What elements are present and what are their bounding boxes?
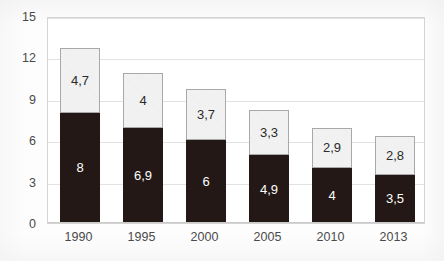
- x-tick-label-2005: 2005: [233, 231, 303, 244]
- bar-value-label-upper: 2,9: [323, 141, 341, 154]
- x-tick-label-1995: 1995: [107, 231, 177, 244]
- bar-chart-figure: 03691215 4,7846,93,763,34,92,942,83,5 19…: [0, 0, 444, 261]
- x-axis-baseline: [48, 222, 424, 223]
- gridline-15: [48, 18, 424, 19]
- bar-group-2010[interactable]: 2,94: [312, 128, 352, 223]
- bar-value-label-lower: 8: [76, 161, 83, 174]
- y-tick-label: 15: [10, 11, 36, 24]
- bar-segment-lower-2005[interactable]: 4,9: [249, 155, 289, 223]
- x-tick-label-2010: 2010: [296, 231, 366, 244]
- bar-group-2000[interactable]: 3,76: [186, 89, 226, 223]
- y-tick-label: 9: [10, 94, 36, 107]
- x-tick-label-1990: 1990: [44, 231, 114, 244]
- y-tick-label: 6: [10, 135, 36, 148]
- x-tick-label-2000: 2000: [170, 231, 240, 244]
- gridline-6: [48, 142, 424, 143]
- bar-segment-lower-2013[interactable]: 3,5: [375, 175, 415, 223]
- gridline-12: [48, 59, 424, 60]
- y-tick-label: 3: [10, 176, 36, 189]
- bar-segment-lower-1995[interactable]: 6,9: [123, 128, 163, 223]
- bar-value-label-upper: 4,7: [71, 74, 89, 87]
- bar-group-2013[interactable]: 2,83,5: [375, 136, 415, 223]
- bar-group-1995[interactable]: 46,9: [123, 73, 163, 223]
- bar-value-label-upper: 3,3: [260, 126, 278, 139]
- bar-value-label-upper: 4: [139, 94, 146, 107]
- bar-segment-lower-1990[interactable]: 8: [60, 113, 100, 223]
- bar-segment-upper-1995[interactable]: 4: [123, 73, 163, 128]
- bar-value-label-lower: 4,9: [260, 183, 278, 196]
- bar-segment-upper-2010[interactable]: 2,9: [312, 128, 352, 168]
- bar-segment-lower-2010[interactable]: 4: [312, 168, 352, 223]
- bar-segment-upper-2005[interactable]: 3,3: [249, 110, 289, 156]
- bar-segment-upper-1990[interactable]: 4,7: [60, 48, 100, 113]
- bar-value-label-lower: 3,5: [386, 192, 404, 205]
- bar-value-label-lower: 4: [328, 189, 335, 202]
- gridline-9: [48, 101, 424, 102]
- bar-value-label-upper: 2,8: [386, 149, 404, 162]
- bar-segment-lower-2000[interactable]: 6: [186, 140, 226, 223]
- bar-value-label-lower: 6,9: [134, 169, 152, 182]
- bar-value-label-upper: 3,7: [197, 108, 215, 121]
- y-tick-label: 0: [10, 218, 36, 231]
- bar-group-2005[interactable]: 3,34,9: [249, 110, 289, 223]
- bar-value-label-lower: 6: [202, 175, 209, 188]
- bar-group-1990[interactable]: 4,78: [60, 48, 100, 223]
- bar-segment-upper-2013[interactable]: 2,8: [375, 136, 415, 175]
- y-tick-label: 12: [10, 52, 36, 65]
- x-tick-label-2013: 2013: [359, 231, 429, 244]
- bar-segment-upper-2000[interactable]: 3,7: [186, 89, 226, 140]
- gridline-3: [48, 184, 424, 185]
- plot-area: 4,7846,93,763,34,92,942,83,5: [47, 17, 425, 224]
